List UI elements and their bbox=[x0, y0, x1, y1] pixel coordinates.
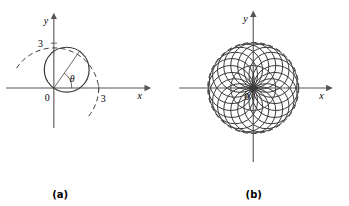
x-axis-label-b: x bbox=[318, 90, 324, 101]
caption-b: (b) bbox=[167, 189, 342, 200]
dashed-arc-lower-a bbox=[87, 88, 99, 119]
radial-line-a bbox=[54, 51, 80, 88]
panel-a-diagram: x y 0 3 3 θ bbox=[0, 0, 175, 206]
caption-a: (a) bbox=[0, 189, 148, 200]
y-tick-label-a: 3 bbox=[38, 38, 43, 49]
x-tick-label-a: 3 bbox=[101, 93, 106, 104]
panel-b: x y 0 (b) bbox=[175, 0, 349, 206]
y-axis-label-a: y bbox=[43, 15, 49, 26]
origin-label-a: 0 bbox=[45, 92, 50, 103]
y-axis-label-b: y bbox=[242, 13, 248, 24]
theta-label-a: θ bbox=[70, 73, 75, 84]
x-axis-label-a: x bbox=[137, 90, 143, 101]
figure-container: x y 0 3 3 θ (a) bbox=[0, 0, 349, 206]
panel-b-diagram: x y 0 bbox=[175, 0, 349, 206]
origin-label-b: 0 bbox=[244, 91, 249, 102]
panel-a: x y 0 3 3 θ (a) bbox=[0, 0, 175, 206]
